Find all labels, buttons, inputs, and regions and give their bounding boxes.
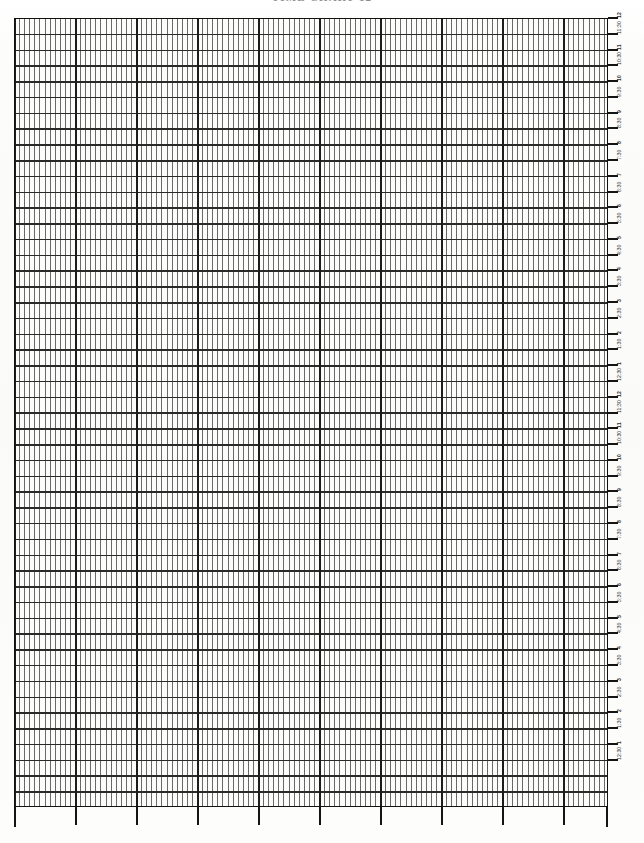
x-axis-tick-mark — [14, 807, 16, 827]
y-axis-tick-label: 7:30 — [617, 150, 622, 160]
plot-border — [14, 18, 608, 807]
x-axis-tick-mark — [136, 807, 138, 825]
y-axis-tick-label: 12:30 — [617, 368, 622, 381]
y-axis-tick-label: 3 — [617, 678, 622, 681]
y-axis-tick-label: 5 — [617, 615, 622, 618]
grid-minor-vertical-lines — [14, 18, 608, 807]
y-axis-tick-label: 5:30 — [617, 592, 622, 602]
x-axis-tick-mark — [380, 807, 382, 825]
grid-horizontal-lines — [14, 18, 608, 807]
y-axis-tick-label: 4 — [617, 646, 622, 649]
y-axis-tick-label: 8 — [617, 141, 622, 144]
y-axis-tick-label: 2 — [617, 709, 622, 712]
y-axis-tick-label: 9 — [617, 110, 622, 113]
x-axis-bottom — [14, 807, 608, 831]
x-axis-tick-mark — [258, 807, 260, 825]
y-axis-tick-label: 9:30 — [617, 465, 622, 475]
x-axis-tick-mark — [563, 807, 565, 825]
y-axis-tick-label: 12:30 — [617, 746, 622, 759]
chart-plot-area — [14, 18, 608, 807]
y-axis-tick-label: 1:30 — [617, 718, 622, 728]
y-axis-tick-label: 8:30 — [617, 497, 622, 507]
y-axis-tick-label: 11 — [617, 423, 622, 429]
page-title: TIME CHART 12 — [0, 0, 644, 3]
y-axis-tick-label: 11:30 — [617, 21, 622, 34]
y-axis-tick-label: 8:30 — [617, 118, 622, 128]
y-axis-tick-label: 7:30 — [617, 528, 622, 538]
y-axis-tick-label: 3 — [617, 299, 622, 302]
x-axis-tick-mark — [441, 807, 443, 825]
y-axis-tick-label: 12 — [617, 12, 622, 18]
y-axis-tick-label: 10:30 — [617, 52, 622, 65]
y-axis-tick-label: 10 — [617, 75, 622, 81]
y-axis-tick-label: 7 — [617, 173, 622, 176]
y-axis-tick-label: 4 — [617, 268, 622, 271]
y-axis-tick-label: 7 — [617, 552, 622, 555]
x-axis-tick-mark — [319, 807, 321, 825]
y-axis-tick-label: 6:30 — [617, 560, 622, 570]
y-axis-tick-label: 9:30 — [617, 87, 622, 97]
chart-title-strip: TIME CHART 12 — [0, 0, 644, 7]
y-axis-tick-label: 1 — [617, 741, 622, 744]
y-axis-tick-label: 6 — [617, 583, 622, 586]
y-axis-tick-label: 4:30 — [617, 623, 622, 633]
x-axis-tick-mark — [606, 807, 608, 827]
y-axis-tick-label: 11:30 — [617, 400, 622, 413]
y-axis-tick-label: 5 — [617, 236, 622, 239]
y-axis-right: 1211:301110:30109:3098:3087:3076:3065:30… — [608, 18, 644, 807]
y-axis-tick-label: 6:30 — [617, 181, 622, 191]
y-axis-tick-label: 3:30 — [617, 655, 622, 665]
y-axis-tick-label: 9 — [617, 488, 622, 491]
y-axis-tick-label: 3:30 — [617, 276, 622, 286]
y-axis-tick-label: 11 — [617, 44, 622, 50]
y-axis-tick-label: 8 — [617, 520, 622, 523]
y-axis-tick-label: 10 — [617, 454, 622, 460]
y-axis-tick-label: 1:30 — [617, 339, 622, 349]
chart-sheet: TIME CHART 12 1211:301110:30109:3098:308… — [0, 0, 644, 843]
y-axis-tick-label: 1 — [617, 362, 622, 365]
x-axis-tick-mark — [75, 807, 77, 825]
x-axis-tick-mark — [502, 807, 504, 825]
y-axis-tick-label: 2:30 — [617, 686, 622, 696]
y-axis-tick-label: 12 — [617, 391, 622, 397]
y-axis-tick-label: 2:30 — [617, 307, 622, 317]
y-axis-tick-label: 5:30 — [617, 213, 622, 223]
y-axis-tick-label: 4:30 — [617, 244, 622, 254]
grid-major-vertical-lines — [14, 18, 608, 807]
y-axis-tick-label: 10:30 — [617, 431, 622, 444]
y-axis-tick-label: 6 — [617, 204, 622, 207]
y-axis-tick-label: 2 — [617, 331, 622, 334]
x-axis-tick-mark — [197, 807, 199, 825]
